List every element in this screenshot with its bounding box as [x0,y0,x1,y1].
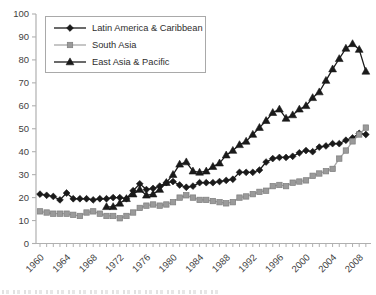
line-chart-figure: 0102030405060708090100196019641968197219… [0,0,376,295]
x-tick-label-1960: 1960 [23,252,46,275]
legend-label: Latin America & Caribbean [92,23,203,33]
chart-legend: Latin America & Caribbean South Asia Eas… [45,16,206,73]
legend-entry-east-asia: East Asia & Pacific [53,53,201,70]
y-tick-label-60: 60 [18,100,29,111]
y-tick-label-100: 100 [13,8,29,19]
triangle-marker-swatch [53,56,87,68]
x-tick-label-1980: 1980 [156,252,179,275]
x-tick-label-1996: 1996 [263,252,286,275]
x-tick-label-2004: 2004 [316,252,339,275]
x-tick-label-2008: 2008 [342,252,365,275]
x-tick-label-1992: 1992 [236,252,259,275]
cropped-caption-fragment [2,290,218,294]
y-tick-label-50: 50 [18,123,29,134]
x-tick-label-1984: 1984 [183,252,206,275]
y-tick-label-40: 40 [18,146,29,157]
series-latin-america-caribbean [37,130,370,203]
diamond-marker-swatch [53,22,87,34]
y-tick-label-0: 0 [24,238,29,249]
series-line-latin-america-caribbean [40,133,366,200]
y-tick-label-70: 70 [18,77,29,88]
square-marker-swatch [53,39,87,51]
y-tick-label-90: 90 [18,31,29,42]
legend-label: East Asia & Pacific [92,57,170,67]
legend-label: South Asia [92,40,136,50]
x-tick-label-1972: 1972 [103,252,126,275]
y-tick-label-10: 10 [18,215,29,226]
x-tick-label-2000: 2000 [289,252,312,275]
y-tick-label-80: 80 [18,54,29,65]
x-tick-label-1964: 1964 [50,252,73,275]
x-tick-label-1988: 1988 [209,252,232,275]
y-tick-label-20: 20 [18,192,29,203]
legend-entry-latin-america: Latin America & Caribbean [53,19,201,36]
y-tick-label-30: 30 [18,169,29,180]
legend-entry-south-asia: South Asia [53,36,201,53]
x-tick-label-1976: 1976 [130,252,153,275]
x-tick-label-1968: 1968 [76,252,99,275]
